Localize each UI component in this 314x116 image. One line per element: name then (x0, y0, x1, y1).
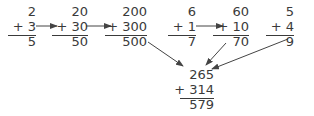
problem-ones: 2 + 3 5 (0, 5, 36, 50)
top-number: 20 (52, 5, 88, 20)
addend: + 30 (52, 20, 88, 35)
sum: 7 (160, 35, 196, 50)
final-problem: 265 + 314 579 (170, 68, 214, 113)
top-number: 200 (105, 5, 147, 20)
problem-tens: 20 + 30 50 (52, 5, 88, 50)
problem-ones-c: 5 + 4 9 (258, 5, 294, 50)
top-number: 6 (160, 5, 196, 20)
sum: 70 (213, 35, 249, 50)
addend: + 314 (170, 83, 214, 98)
addend: + 4 (266, 20, 294, 35)
addend: + 3 (8, 20, 36, 35)
sum: 579 (170, 98, 214, 113)
addend: + 300 (105, 20, 147, 35)
sum: 500 (105, 35, 147, 50)
top-number: 5 (258, 5, 294, 20)
sum: 50 (52, 35, 88, 50)
addend: + 10 (213, 20, 249, 35)
problem-tens-b: 60 + 10 70 (213, 5, 249, 50)
top-number: 265 (170, 68, 214, 83)
top-number: 60 (213, 5, 249, 20)
addend: + 1 (168, 20, 196, 35)
sum: 5 (0, 35, 36, 50)
problem-hundreds: 200 + 300 500 (105, 5, 147, 50)
sum: 9 (258, 35, 294, 50)
top-number: 2 (0, 5, 36, 20)
problem-ones-b: 6 + 1 7 (160, 5, 196, 50)
